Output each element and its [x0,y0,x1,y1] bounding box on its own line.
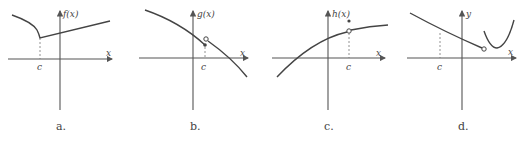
open-point [204,37,208,41]
open-point [347,29,351,33]
caption-d: d. [458,120,469,133]
x-label: x [240,48,245,58]
x-label: x [106,48,111,58]
curve-f [12,15,110,38]
curve-h-left [277,32,347,77]
filled-point [347,19,350,22]
curve-h-right [351,25,388,30]
graph-d: y x c d. [407,9,516,133]
c-label: c [346,62,351,72]
curve-g-right [208,41,247,77]
func-label: f(x) [62,9,79,19]
func-label: y [465,9,472,19]
caption-c: c. [324,120,334,133]
caption-a: a. [56,120,66,133]
curve-g-left [145,10,205,45]
func-label: h(x) [332,9,350,19]
func-label: g(x) [197,9,215,19]
graphs-figure: f(x) x c a. g(x) x c b. h(x) x c c. [0,0,517,141]
c-label: c [37,62,42,72]
curve-d-right [484,20,514,48]
x-label: x [508,47,513,57]
c-label: c [437,62,442,72]
filled-point [203,43,207,47]
caption-b: b. [190,120,201,133]
x-label: x [376,48,381,58]
c-label: c [201,62,206,72]
open-point [482,47,486,51]
graph-c: h(x) x c c. [272,9,388,133]
graph-b: g(x) x c b. [139,9,248,133]
curve-d-left [410,13,482,48]
graph-a: f(x) x c a. [8,9,112,133]
